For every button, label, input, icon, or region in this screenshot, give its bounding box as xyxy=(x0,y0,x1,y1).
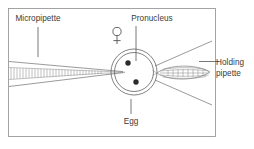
label-holding-pipette-line2: pipette xyxy=(216,69,241,78)
label-holding-pipette-line1: Holding xyxy=(216,58,245,67)
diagram-canvas: Micropipette Pronucleus Egg Holding pipe… xyxy=(0,0,254,149)
micropipette-hatching xyxy=(11,68,101,79)
micropipette-bore-top xyxy=(9,68,106,72)
holding-pipette xyxy=(153,41,213,105)
label-micropipette: Micropipette xyxy=(15,14,61,23)
label-egg: Egg xyxy=(124,117,139,126)
label-pronucleus: Pronucleus xyxy=(131,14,172,23)
holding-pipette-lower-guide xyxy=(155,80,212,105)
female-symbol-icon xyxy=(113,27,121,44)
micropipette-tip-bottom xyxy=(106,73,125,74)
pronucleus-dot-female xyxy=(133,79,138,84)
female-symbol-circle xyxy=(113,27,121,35)
micropipette-needle xyxy=(9,62,125,87)
pronucleus-dot-male xyxy=(125,60,130,65)
holding-pipette-upper-guide xyxy=(155,41,212,66)
pronuclear-injection-diagram: Micropipette Pronucleus Egg Holding pipe… xyxy=(0,0,254,149)
